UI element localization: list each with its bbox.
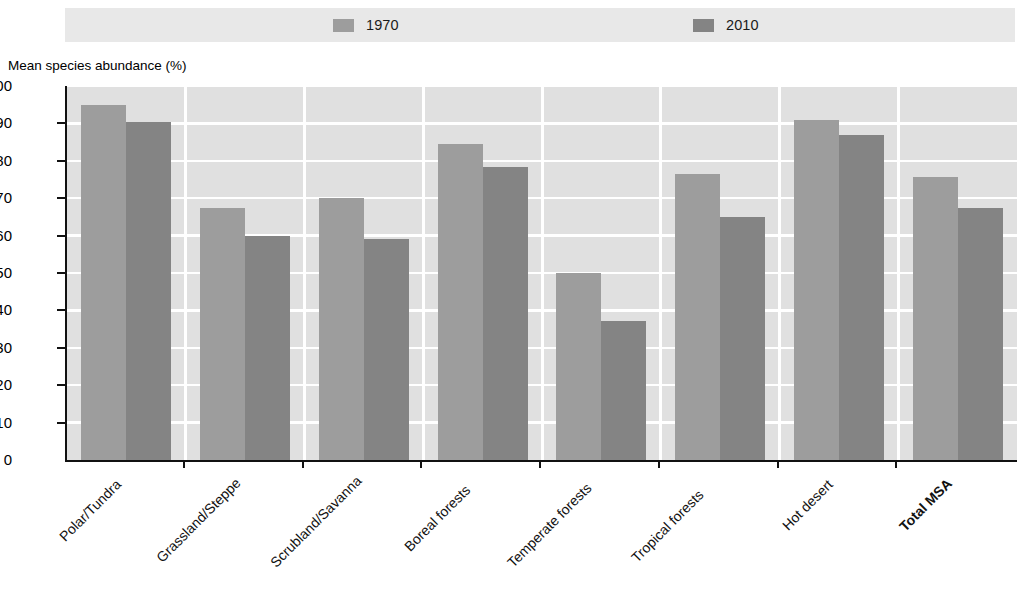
bar-1970-polar-tundra[interactable] (81, 105, 126, 460)
bar-1970-hot-desert[interactable] (794, 120, 839, 460)
bar-2010-total-msa[interactable] (958, 208, 1003, 460)
y-tick-mark (57, 309, 65, 311)
plot-inner (67, 86, 1017, 460)
chart-legend: 1970 2010 (65, 8, 1015, 42)
gridline-vertical (303, 86, 306, 460)
legend-label-2010: 2010 (726, 18, 759, 32)
y-tick-mark (57, 122, 65, 124)
y-tick-label: 60 (0, 228, 12, 243)
legend-swatch-2010 (693, 19, 714, 32)
plot-area (65, 86, 1017, 462)
bar-2010-boreal-forests[interactable] (483, 167, 528, 460)
x-axis-label: Tropical forests (628, 486, 707, 565)
y-tick-label: 100 (0, 78, 12, 93)
bar-1970-boreal-forests[interactable] (438, 144, 483, 460)
legend-label-1970: 1970 (366, 18, 399, 32)
gridline-vertical (541, 86, 544, 460)
gridline-vertical (897, 86, 900, 460)
x-tick-mark (895, 461, 897, 468)
y-tick-label: 50 (0, 265, 12, 280)
x-tick-mark (658, 461, 660, 468)
y-tick-label: 10 (0, 415, 12, 430)
x-axis-label: Total MSA (896, 476, 955, 535)
legend-item-1970[interactable]: 1970 (333, 17, 399, 33)
x-tick-mark (777, 461, 779, 468)
gridline-vertical (422, 86, 425, 460)
bar-1970-grassland-steppe[interactable] (200, 208, 245, 460)
gridline-vertical (778, 86, 781, 460)
y-tick-label: 80 (0, 153, 12, 168)
x-tick-mark (420, 461, 422, 468)
bar-2010-grassland-steppe[interactable] (245, 236, 290, 460)
y-tick-mark (57, 272, 65, 274)
y-tick-mark (57, 235, 65, 237)
legend-item-2010[interactable]: 2010 (693, 17, 759, 33)
y-axis-title: Mean species abundance (%) (8, 58, 187, 73)
legend-swatch-1970 (333, 19, 354, 32)
bar-2010-polar-tundra[interactable] (126, 122, 171, 460)
x-axis-label: Temperate forests (504, 480, 595, 571)
y-tick-mark (57, 160, 65, 162)
y-tick-mark (57, 197, 65, 199)
gridline-vertical (184, 86, 187, 460)
bar-2010-hot-desert[interactable] (839, 135, 884, 460)
bar-2010-temperate-forests[interactable] (601, 321, 646, 460)
y-tick-label: 20 (0, 377, 12, 392)
bar-1970-scrubland-savanna[interactable] (319, 198, 364, 460)
x-axis-label: Grassland/Steppe (153, 474, 244, 565)
bar-2010-tropical-forests[interactable] (720, 217, 765, 460)
x-axis-label: Boreal forests (401, 482, 473, 554)
chart-root: 1970 2010 Mean species abundance (%) 100… (0, 0, 1030, 610)
x-tick-mark (302, 461, 304, 468)
y-tick-mark (57, 422, 65, 424)
y-tick-label: 40 (0, 302, 12, 317)
y-tick-label: 90 (0, 115, 12, 130)
bar-1970-tropical-forests[interactable] (675, 174, 720, 460)
x-tick-mark (539, 461, 541, 468)
y-tick-label: 70 (0, 190, 12, 205)
y-tick-label: 30 (0, 340, 12, 355)
y-tick-mark (57, 347, 65, 349)
bar-1970-temperate-forests[interactable] (556, 273, 601, 460)
bar-2010-scrubland-savanna[interactable] (364, 239, 409, 460)
x-axis-label: Scrubland/Savanna (267, 473, 365, 571)
bar-1970-total-msa[interactable] (913, 177, 958, 460)
x-axis-label: Hot desert (779, 477, 836, 534)
gridline-vertical (659, 86, 662, 460)
y-tick-label: 0 (0, 452, 12, 467)
y-tick-mark (57, 384, 65, 386)
x-tick-mark (183, 461, 185, 468)
x-axis-label: Polar/Tundra (56, 476, 124, 544)
